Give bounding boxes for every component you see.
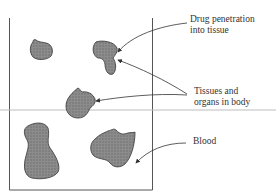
- label-line: into tissue: [190, 25, 255, 36]
- label-blood: Blood: [193, 136, 216, 147]
- tissue-blob-4: [24, 123, 59, 179]
- drug-distribution-diagram: Drug penetration into tissue Tissues and…: [0, 0, 276, 196]
- label-drug-penetration: Drug penetration into tissue: [190, 14, 255, 36]
- arrow-tissues-lower: [96, 94, 187, 101]
- tissue-blob-2: [93, 41, 117, 74]
- label-tissues-organs: Tissues and organs in body: [194, 86, 250, 108]
- tissue-blob-3: [66, 88, 95, 118]
- tissue-blob-5: [91, 129, 135, 167]
- tissue-blob-1: [30, 40, 52, 60]
- label-line: organs in body: [194, 97, 250, 108]
- arrow-blood: [136, 143, 186, 163]
- label-line: Drug penetration: [190, 14, 255, 25]
- label-line: Tissues and: [194, 86, 250, 97]
